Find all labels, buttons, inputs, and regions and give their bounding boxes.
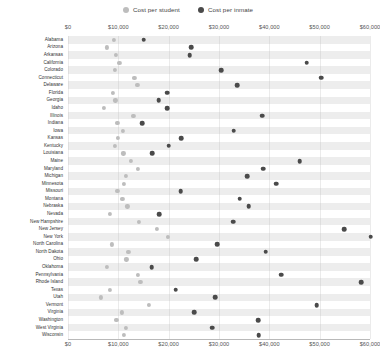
data-point[interactable]: [215, 242, 220, 247]
data-point[interactable]: [256, 333, 261, 338]
data-point[interactable]: [304, 60, 309, 65]
legend-label-inmate: Cost per inmate: [208, 6, 253, 13]
data-point[interactable]: [188, 53, 193, 58]
x-tick-label: $0: [65, 341, 71, 347]
x-tick-label: $30,000: [209, 341, 230, 347]
y-axis-label-missouri: Missouri: [46, 189, 63, 194]
circle-marker-icon-inmate: [198, 7, 204, 13]
data-point[interactable]: [368, 234, 373, 239]
x-tick-label: $40,000: [259, 24, 280, 30]
plot-area: [68, 36, 370, 339]
data-point[interactable]: [165, 106, 170, 111]
data-point[interactable]: [231, 219, 236, 224]
x-tick-label: $60,000: [360, 341, 380, 347]
gridline: [118, 36, 119, 339]
gridlines: [68, 36, 370, 339]
y-axis-label-rhode-island: Rhode Island: [36, 280, 63, 285]
data-point[interactable]: [246, 204, 251, 209]
y-axis-label-texas: Texas: [51, 287, 63, 292]
circle-marker-icon-student: [123, 7, 129, 13]
y-axis-label-north-carolina: North Carolina: [33, 242, 63, 247]
data-point[interactable]: [279, 272, 284, 277]
x-tick-label: $10,000: [108, 341, 129, 347]
y-axis-label-georgia: Georgia: [47, 98, 63, 103]
y-axis-label-washington: Washington: [39, 318, 63, 323]
y-axis-label-maine: Maine: [50, 159, 63, 164]
data-point[interactable]: [149, 265, 154, 270]
y-axis-label-california: California: [43, 60, 63, 65]
data-point[interactable]: [213, 295, 218, 300]
y-axis-label-florida: Florida: [49, 91, 63, 96]
y-axis-label-minnesota: Minnesota: [42, 181, 63, 186]
data-point[interactable]: [314, 303, 319, 308]
gridline: [370, 36, 371, 339]
data-point[interactable]: [231, 128, 236, 133]
x-tick-label: $60,000: [360, 24, 380, 30]
y-axis-label-west-virginia: West Virginia: [36, 325, 63, 330]
x-tick-label: $0: [65, 24, 71, 30]
data-point[interactable]: [319, 75, 324, 80]
y-axis-label-iowa: Iowa: [53, 128, 63, 133]
y-axis-label-illinois: Illinois: [50, 113, 63, 118]
y-axis-label-kansas: Kansas: [48, 136, 63, 141]
data-point[interactable]: [359, 280, 364, 285]
x-tick-label: $40,000: [259, 341, 280, 347]
x-tick-label: $50,000: [309, 24, 330, 30]
data-point[interactable]: [140, 121, 145, 126]
legend-label-student: Cost per student: [133, 6, 180, 13]
y-axis-label-colorado: Colorado: [44, 68, 63, 73]
legend-item-cost-per-student[interactable]: Cost per student: [123, 6, 180, 13]
data-point[interactable]: [235, 83, 240, 88]
y-axis-label-arkansas: Arkansas: [44, 53, 63, 58]
data-point[interactable]: [150, 151, 155, 156]
data-point[interactable]: [237, 197, 242, 202]
data-point[interactable]: [156, 98, 161, 103]
y-axis-label-indiana: Indiana: [48, 121, 63, 126]
data-point[interactable]: [179, 136, 184, 141]
data-point[interactable]: [165, 91, 170, 96]
y-axis-label-arizona: Arizona: [47, 45, 63, 50]
x-tick-label: $20,000: [158, 341, 179, 347]
data-point[interactable]: [178, 189, 183, 194]
gridline: [269, 36, 270, 339]
x-axis-top: $0$10,000$20,000$30,000$40,000$50,000$60…: [0, 24, 376, 34]
data-point[interactable]: [189, 45, 194, 50]
data-point[interactable]: [245, 174, 250, 179]
data-point[interactable]: [219, 68, 224, 73]
data-point[interactable]: [194, 257, 199, 262]
y-axis-label-pennsylvania: Pennsylvania: [35, 272, 63, 277]
y-axis-label-louisiana: Louisiana: [43, 151, 63, 156]
y-axis-label-montana: Montana: [45, 197, 63, 202]
x-tick-label: $30,000: [209, 24, 230, 30]
gridline: [169, 36, 170, 339]
data-point[interactable]: [166, 144, 171, 149]
data-point[interactable]: [256, 318, 261, 323]
gridline: [320, 36, 321, 339]
y-axis-label-vermont: Vermont: [46, 303, 63, 308]
y-axis-label-new-york: New York: [43, 234, 63, 239]
data-point[interactable]: [192, 310, 197, 315]
x-axis-line: [68, 339, 370, 340]
chart-legend: Cost per student Cost per inmate: [0, 6, 376, 13]
data-point[interactable]: [210, 325, 215, 330]
y-axis-label-virginia: Virginia: [48, 310, 63, 315]
y-axis-label-kentucky: Kentucky: [44, 144, 63, 149]
data-point[interactable]: [264, 250, 269, 255]
y-axis-label-new-jersey: New Jersey: [39, 227, 63, 232]
y-axis-label-michigan: Michigan: [44, 174, 63, 179]
y-axis-label-delaware: Delaware: [43, 83, 63, 88]
y-axis-label-connecticut: Connecticut: [39, 75, 63, 80]
data-point[interactable]: [173, 287, 178, 292]
legend-item-cost-per-inmate[interactable]: Cost per inmate: [198, 6, 253, 13]
y-axis-label-nebraska: Nebraska: [43, 204, 63, 209]
data-point[interactable]: [342, 227, 347, 232]
data-point[interactable]: [261, 166, 266, 171]
y-axis-label-wisconsin: Wisconsin: [42, 333, 63, 338]
data-point[interactable]: [297, 159, 302, 164]
data-point[interactable]: [274, 181, 279, 186]
y-axis-category-labels: AlabamaArizonaArkansasCaliforniaColorado…: [0, 36, 66, 339]
data-point[interactable]: [260, 113, 265, 118]
data-point[interactable]: [157, 212, 162, 217]
data-point[interactable]: [141, 37, 146, 42]
